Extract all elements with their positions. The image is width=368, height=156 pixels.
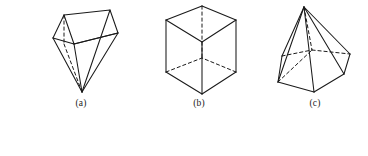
hidden-edge-b-base-2 — [202, 58, 236, 72]
prism-bottom-edge-b-1 — [166, 72, 202, 94]
page-canvas: (a) — [0, 0, 368, 156]
hex-base-edge-c-1 — [278, 56, 282, 82]
hex-base-edge-c-3 — [314, 74, 344, 92]
lateral-edge-c-5 — [304, 7, 350, 54]
figure-a: (a) — [22, 0, 140, 122]
base-edge-a-right — [74, 33, 118, 44]
hidden-edge-a-2 — [64, 44, 82, 92]
lateral-edge-c-3 — [304, 7, 314, 92]
prism-top-edge-b-3 — [166, 20, 202, 42]
figure-b-label: (b) — [140, 98, 258, 108]
hidden-edge-c-base-2 — [312, 50, 350, 54]
lateral-edge-a-4 — [82, 10, 110, 92]
figure-b: (b) — [140, 0, 258, 122]
base-edge-a-left — [53, 15, 64, 38]
lateral-edge-c-4 — [304, 7, 344, 74]
prism-top-edge-b-1 — [166, 6, 202, 20]
figures-row: (a) — [0, 0, 368, 122]
lateral-edge-a-3 — [82, 33, 118, 92]
prism-bottom-edge-b-2 — [202, 72, 236, 94]
hidden-edge-c-base-1 — [282, 50, 312, 56]
hidden-edge-b-base-1 — [166, 58, 202, 72]
lateral-edge-c-1 — [278, 7, 304, 82]
pyramid-base-face-a — [64, 10, 118, 44]
figure-a-label: (a) — [22, 98, 140, 108]
lateral-edge-c-2 — [282, 7, 304, 56]
hex-base-edge-c-2 — [278, 82, 314, 92]
prism-top-edge-b-4 — [202, 20, 236, 42]
prism-top-edge-b-2 — [202, 6, 236, 20]
hex-base-edge-c-4 — [344, 54, 350, 74]
caption-strip: Give an example of a polyhedron as each … — [0, 122, 368, 156]
figure-c-label: (c) — [256, 98, 368, 108]
figure-c: (c) — [256, 0, 368, 122]
